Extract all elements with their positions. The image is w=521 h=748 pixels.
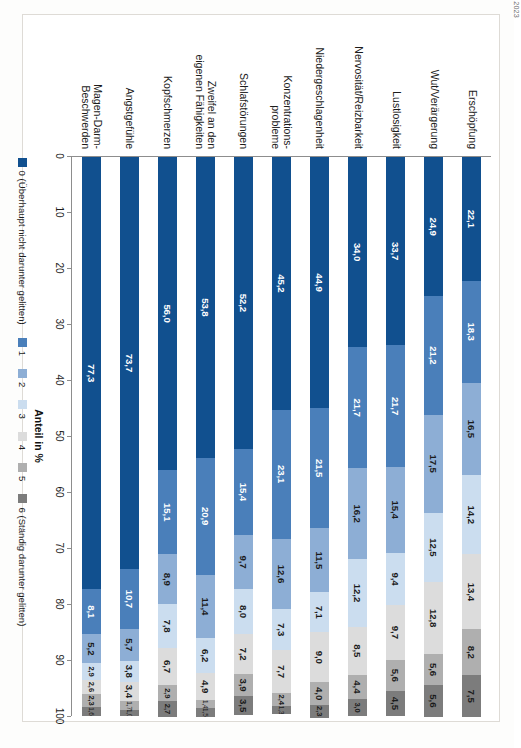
bar-segment: 5,7 — [120, 629, 139, 661]
bar-segment: 8,1 — [82, 589, 101, 634]
bar-segment: 16,2 — [348, 468, 367, 559]
bar-segment: 2,3 — [82, 694, 101, 707]
bar-segment: 7,3 — [272, 609, 291, 650]
bar-segment: 11,5 — [310, 528, 329, 592]
bar-segment: 56,0 — [158, 157, 177, 470]
axis-tick — [67, 604, 71, 605]
axis-tick-label: 50 — [54, 430, 65, 441]
legend-item: 3 — [17, 400, 28, 418]
axis-tick-label: 0 — [54, 153, 65, 159]
bar-segment: 52,2 — [234, 157, 253, 449]
legend-label: 1 — [17, 351, 28, 356]
axis-tick-label: 40 — [54, 374, 65, 385]
bar-segment: 15,1 — [158, 470, 177, 554]
source-note: Fehlzeiten-Report 2023 — [512, 0, 521, 18]
bar-segment: 33,7 — [386, 157, 405, 345]
bar-segment: 4,5 — [386, 691, 405, 716]
bar-segment: 1,0 — [120, 710, 139, 716]
bar-segment: 77,3 — [82, 157, 101, 589]
bar-row: 22,118,316,514,213,48,27,5 — [453, 157, 491, 716]
bar-segment: 17,5 — [424, 415, 443, 513]
bar-segment: 15,4 — [234, 449, 253, 535]
legend-swatch-icon — [18, 400, 27, 409]
bar-row: 45,223,112,67,37,72,41,3 — [262, 157, 300, 716]
bar-segment: 34,0 — [348, 157, 367, 347]
axis-tick-label: 30 — [54, 318, 65, 329]
bar-segment: 73,7 — [120, 157, 139, 569]
legend-label: 3 — [17, 413, 28, 418]
bar-segment: 1,4 — [196, 700, 215, 708]
bar-segment: 8,0 — [234, 589, 253, 634]
bar-segment: 3,8 — [120, 661, 139, 682]
bar-segment: 16,5 — [462, 383, 481, 475]
bar-segment: 9,4 — [386, 553, 405, 606]
bar-segment: 18,3 — [462, 281, 481, 383]
bar-segment: 7,1 — [310, 592, 329, 632]
bar-segment: 21,7 — [348, 347, 367, 468]
stacked-bar: 24,921,217,512,512,85,65,6 — [424, 157, 443, 716]
bar-row: 56,015,18,97,86,72,92,7 — [148, 157, 186, 716]
bar-segment: 12,5 — [424, 513, 443, 583]
bar-segment: 23,1 — [272, 410, 291, 539]
bar-segment: 2,7 — [158, 701, 177, 716]
bar-segment: 21,7 — [386, 345, 405, 466]
category-label: Kopfschmerzen — [148, 28, 186, 156]
bar-row: 52,215,49,78,07,23,93,5 — [224, 157, 262, 716]
axis-tick — [67, 548, 71, 549]
bar-segment: 21,5 — [310, 408, 329, 528]
legend-label: 4 — [17, 445, 28, 450]
bar-segment: 14,2 — [462, 475, 481, 554]
bar-segment: 3,9 — [234, 674, 253, 696]
bar-segment: 9,7 — [234, 535, 253, 589]
bar-segment: 9,7 — [386, 605, 405, 659]
category-label: Magen-Darm- Beschwerden — [72, 28, 110, 156]
bar-segment: 1,6 — [82, 707, 101, 716]
category-label: Schlafstörungen — [224, 28, 262, 156]
bar-segment: 24,9 — [424, 157, 443, 296]
axis-tick-label: 100 — [54, 708, 65, 725]
bar-segment: 2,4 — [272, 693, 291, 706]
bar-segment: 20,9 — [196, 458, 215, 575]
bar-segment: 2,6 — [82, 680, 101, 695]
value-axis: 0102030405060708090100 — [46, 28, 72, 716]
axis-tick — [67, 156, 71, 157]
legend-item: 5 — [17, 463, 28, 481]
plot-area: ErschöpfungWut/VerärgerungLustlosigkeitN… — [72, 28, 491, 716]
bar-segment: 12,8 — [424, 582, 443, 654]
bar-segment: 4,0 — [310, 682, 329, 704]
stacked-bar: 77,38,15,22,92,62,31,6 — [82, 157, 101, 716]
bar-segment: 3,5 — [234, 696, 253, 716]
bar-row: 77,38,15,22,92,62,31,6 — [72, 157, 110, 716]
value-axis-spacer — [46, 28, 72, 156]
legend-label: 5 — [17, 476, 28, 481]
axis-tick — [67, 436, 71, 437]
stacked-bar-chart: ErschöpfungWut/VerärgerungLustlosigkeitN… — [7, 14, 507, 734]
bar-row: 34,021,716,212,28,54,43,0 — [339, 157, 377, 716]
legend-swatch-icon — [18, 338, 27, 347]
axis-tick-label: 70 — [54, 542, 65, 553]
bar-segment: 2,9 — [82, 663, 101, 679]
chart-legend: 0 (Überhaupt nicht darunter gelitten)123… — [17, 28, 28, 716]
category-label: Konzentrations- probleme — [262, 28, 300, 156]
axis-tick-label: 80 — [54, 598, 65, 609]
bar-segment: 7,2 — [234, 634, 253, 674]
bar-segment: 7,7 — [272, 650, 291, 693]
legend-swatch-icon — [18, 432, 27, 441]
axis-tick — [67, 660, 71, 661]
bar-row: 33,721,715,49,49,75,64,5 — [377, 157, 415, 716]
bar-segment: 1,5 — [196, 708, 215, 716]
bar-segment: 8,5 — [348, 627, 367, 675]
bar-segment: 7,5 — [462, 675, 481, 717]
axis-tick — [67, 492, 71, 493]
legend-label: 2 — [17, 382, 28, 387]
axis-tick — [67, 716, 71, 717]
legend-swatch-icon — [18, 369, 27, 378]
legend-label: 0 (Überhaupt nicht darunter gelitten) — [17, 171, 28, 325]
stacked-bar: 45,223,112,67,37,72,41,3 — [272, 157, 291, 716]
bar-segment: 9,0 — [310, 632, 329, 682]
bar-segment: 1,7 — [120, 701, 139, 711]
bar-segment: 22,1 — [462, 157, 481, 281]
legend-swatch-icon — [18, 494, 27, 503]
bar-segment: 2,9 — [158, 685, 177, 701]
